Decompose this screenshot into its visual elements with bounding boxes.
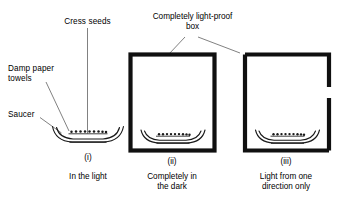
leader-lightproof-left xyxy=(169,37,185,54)
panel-numeral-ii: (ii) xyxy=(152,157,192,166)
cress-seeds-iii xyxy=(272,133,305,136)
panel-i-apparatus xyxy=(53,127,124,143)
leader-damp-paper xyxy=(46,82,69,131)
cress-seed-light-experiment-figure: Cress seeds Damp paper towels Saucer Com… xyxy=(0,0,348,209)
panel-numeral-iii: (iii) xyxy=(266,157,306,166)
label-cress-seeds: Cress seeds xyxy=(55,17,120,27)
label-saucer: Saucer xyxy=(8,110,58,120)
panel-caption-ii: Completely in the dark xyxy=(130,172,214,193)
label-lightproof-box: Completely light-proof box xyxy=(135,12,250,33)
box-wall-top xyxy=(245,55,329,88)
panel-caption-i: In the light xyxy=(48,172,128,182)
label-damp-paper-towels: Damp paper towels xyxy=(8,64,80,84)
saucer-i xyxy=(53,127,124,143)
leader-lightproof-right xyxy=(198,37,240,53)
panel-caption-iii: Light from one direction only xyxy=(244,172,328,193)
panel-ii-apparatus xyxy=(131,55,215,151)
panel-numeral-i: (i) xyxy=(68,153,108,162)
cress-seeds-i xyxy=(70,130,107,133)
cress-seeds-ii xyxy=(158,133,191,136)
panel-iii-apparatus xyxy=(245,55,329,151)
